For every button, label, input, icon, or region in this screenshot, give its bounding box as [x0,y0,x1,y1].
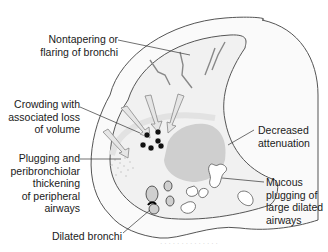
label-crowding: Crowding with associated loss of volume [2,98,80,136]
label-plugging: Plugging and peribronchiolar thickening … [2,152,80,215]
label-mucous-plugging: Mucous plugging of large dilated airways [266,176,328,226]
figure-caption: · · · · · · · · · · · · · · [160,240,218,247]
label-nontapering: Nontapering or flaring of bronchi [30,33,118,58]
label-decreased-attenuation: Decreased attenuation [258,124,328,149]
label-dilated-bronchi: Dilated bronchi [40,230,122,243]
